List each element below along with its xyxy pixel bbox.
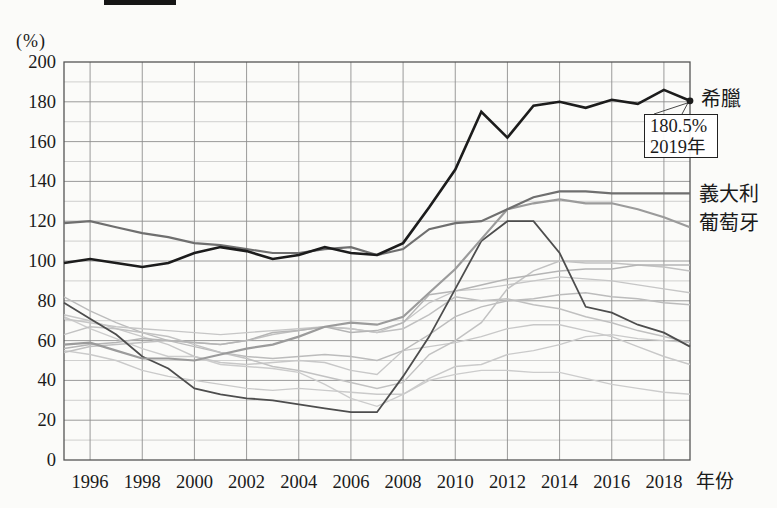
- series-line-希臘: [64, 90, 690, 267]
- series-label-portugal: 葡萄牙: [699, 212, 759, 234]
- y-tick-label: 60: [0, 330, 56, 352]
- x-tick-label: 2000: [166, 471, 222, 493]
- x-tick-label: 1996: [62, 471, 118, 493]
- x-tick-label: 1998: [114, 471, 170, 493]
- y-tick-label: 100: [0, 250, 56, 272]
- x-tick-label: 2006: [323, 471, 379, 493]
- x-tick-label: 2012: [479, 471, 535, 493]
- series-label-greece: 希臘: [701, 88, 741, 110]
- series-line-gray-6: [64, 277, 690, 335]
- x-tick-label: 2014: [532, 471, 588, 493]
- annotation-year: 2019年: [650, 137, 717, 158]
- y-tick-label: 40: [0, 369, 56, 391]
- x-tick-label: 2002: [219, 471, 275, 493]
- x-tick-label: 2016: [584, 471, 640, 493]
- y-tick-label: 20: [0, 409, 56, 431]
- annotation-value: 180.5%: [650, 116, 717, 137]
- y-tick-label: 160: [0, 131, 56, 153]
- y-tick-label: 140: [0, 170, 56, 192]
- series-line-gray-7: [64, 293, 690, 361]
- x-tick-label: 2004: [271, 471, 327, 493]
- x-tick-label: 2010: [427, 471, 483, 493]
- debt-ratio-line-chart: [0, 0, 777, 508]
- textbook-chart-page: (%) 年份 020406080100120140160180200199619…: [0, 0, 777, 508]
- series-line-義大利: [64, 191, 690, 255]
- x-axis-unit-label: 年份: [696, 471, 734, 493]
- y-tick-label: 120: [0, 210, 56, 232]
- x-tick-label: 2008: [375, 471, 431, 493]
- y-tick-label: 80: [0, 290, 56, 312]
- x-tick-label: 2018: [636, 471, 692, 493]
- greece-endpoint-dot: [687, 97, 694, 104]
- series-line-gray-3: [64, 221, 690, 412]
- y-tick-label: 200: [0, 51, 56, 73]
- y-axis-unit-label: (%): [16, 31, 46, 52]
- greece-endpoint-annotation: 180.5% 2019年: [644, 114, 718, 158]
- series-label-italy: 義大利: [699, 183, 759, 205]
- y-tick-label: 180: [0, 91, 56, 113]
- y-tick-label: 0: [0, 449, 56, 471]
